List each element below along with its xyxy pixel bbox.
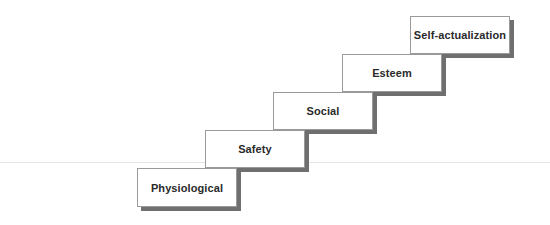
step-label: Social xyxy=(306,105,339,117)
step-label: Physiological xyxy=(151,182,223,194)
step-physiological: Physiological xyxy=(137,168,237,207)
step-self-actualization: Self-actualization xyxy=(410,16,510,54)
step-label: Safety xyxy=(238,143,272,155)
step-label: Esteem xyxy=(372,67,412,79)
step-esteem: Esteem xyxy=(342,54,442,92)
step-label: Self-actualization xyxy=(414,29,506,41)
step-safety: Safety xyxy=(205,130,305,168)
step-social: Social xyxy=(273,92,373,130)
